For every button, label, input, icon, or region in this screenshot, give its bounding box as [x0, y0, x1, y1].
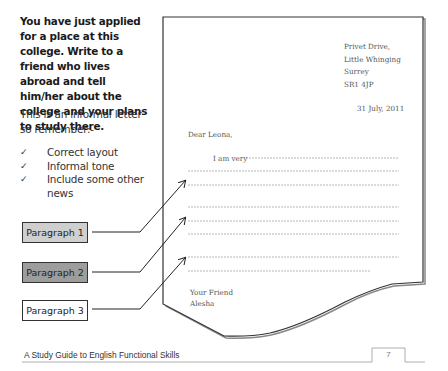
letter-signoff: Your Friend Alesha: [190, 288, 233, 309]
footer-title: A Study Guide to English Functional Skil…: [24, 350, 180, 360]
letter-opening: I am very: [213, 154, 247, 163]
letter-greeting: Dear Leona,: [188, 130, 233, 139]
letter-date: 31 July, 2011: [357, 104, 404, 113]
sender-address: Privet Drive, Little Whinging Surrey SR1…: [344, 41, 401, 91]
page-number: 7: [372, 347, 405, 361]
